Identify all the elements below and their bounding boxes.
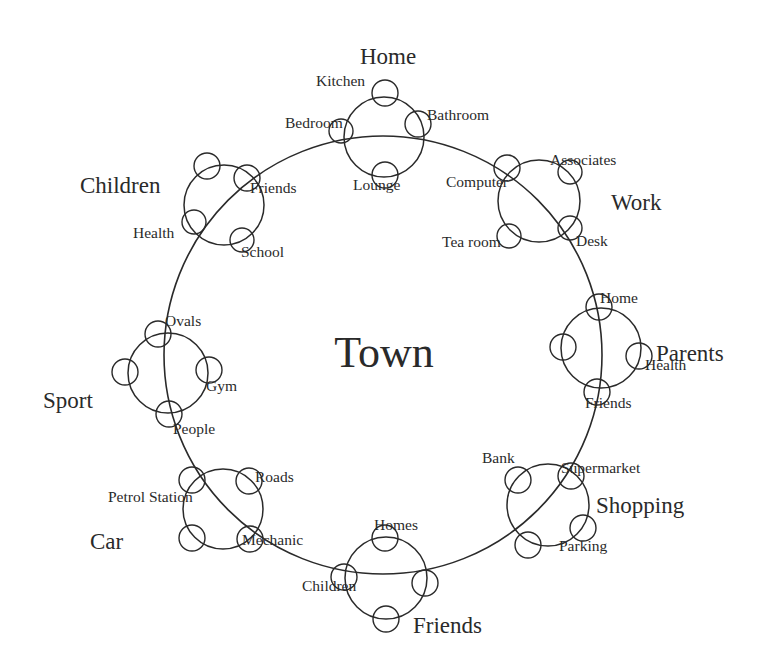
item-label-friends: Friends	[250, 179, 297, 196]
item-label-supermarket: Supermarket	[561, 459, 641, 476]
group-sport: OvalsGymPeopleSport	[43, 312, 237, 437]
item-label-bathroom: Bathroom	[427, 106, 489, 123]
item-label-tea-room: Tea room	[442, 233, 501, 250]
item-label-parking: Parking	[559, 537, 607, 554]
group-label-friends: Friends	[413, 613, 482, 638]
item-label-bedroom: Bedroom	[285, 114, 343, 131]
group-shopping: BankSupermarketParkingShopping	[482, 449, 685, 558]
group-friends: HomesChildrenFriends	[302, 516, 482, 638]
item-label-homes: Homes	[374, 516, 418, 533]
item-label-mechanic: Mechanic	[242, 531, 303, 548]
group-work: ComputerAssociatesTea roomDeskWork	[442, 151, 662, 250]
center-label-town: Town	[334, 328, 434, 377]
group-label-work: Work	[611, 190, 662, 215]
item-label-gym: Gym	[206, 377, 237, 394]
item-label-children: Children	[302, 577, 356, 594]
group-car: Petrol StationRoadsMechanicCar	[90, 467, 303, 554]
item-label-ovals: Ovals	[165, 312, 201, 329]
item-label-petrol-station: Petrol Station	[108, 488, 193, 505]
group-children: FriendsHealthSchoolChildren	[80, 153, 297, 260]
item-circle-kitchen	[372, 80, 398, 106]
item-circle-unlabeled	[179, 525, 205, 551]
item-label-desk: Desk	[576, 232, 608, 249]
item-label-computer: Computer	[446, 173, 509, 190]
item-label-school: School	[241, 243, 284, 260]
item-label-friends: Friends	[585, 394, 632, 411]
group-label-sport: Sport	[43, 388, 93, 413]
group-label-parents: Parents	[656, 341, 724, 366]
item-label-health: Health	[133, 224, 175, 241]
item-label-lounge: Lounge	[353, 176, 400, 193]
item-label-roads: Roads	[255, 468, 294, 485]
group-home: KitchenBathroomBedroomLoungeHome	[285, 44, 489, 193]
item-circle-bank	[505, 467, 531, 493]
item-label-home: Home	[600, 289, 638, 306]
group-parents: HomeHealthFriendsParents	[550, 289, 724, 411]
item-circle-unlabeled	[112, 359, 138, 385]
town-diagram: KitchenBathroomBedroomLoungeHomeComputer…	[0, 0, 772, 662]
item-label-kitchen: Kitchen	[316, 72, 365, 89]
item-label-people: People	[173, 420, 215, 437]
group-label-children: Children	[80, 173, 161, 198]
item-label-associates: Associates	[550, 151, 616, 168]
item-label-bank: Bank	[482, 449, 515, 466]
group-label-shopping: Shopping	[596, 493, 685, 518]
group-label-car: Car	[90, 529, 124, 554]
group-label-home: Home	[360, 44, 416, 69]
group-circle-shopping	[507, 464, 589, 546]
